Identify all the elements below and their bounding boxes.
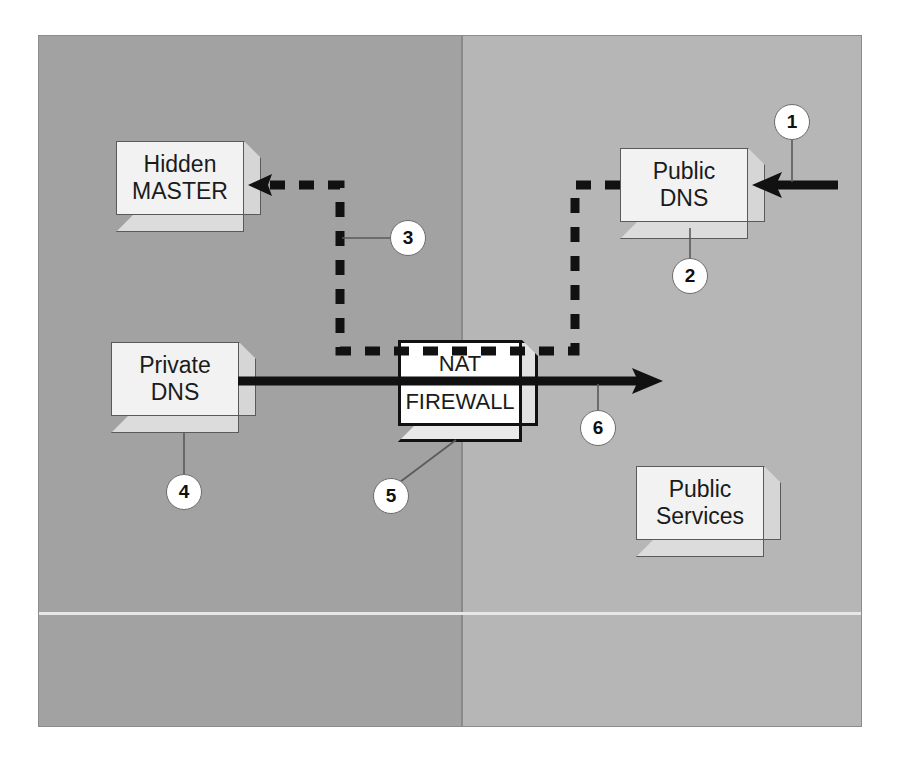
callout-2[interactable]: 2 [672, 258, 708, 294]
callout-leader-lines [0, 0, 897, 767]
callout-6[interactable]: 6 [580, 410, 616, 446]
callout-5[interactable]: 5 [373, 478, 409, 514]
callout-3[interactable]: 3 [390, 220, 426, 256]
callout-4[interactable]: 4 [166, 474, 202, 510]
callout-1[interactable]: 1 [774, 104, 810, 140]
diagram-canvas: Hidden MASTER Public DNS Private DNS NAT… [0, 0, 897, 767]
